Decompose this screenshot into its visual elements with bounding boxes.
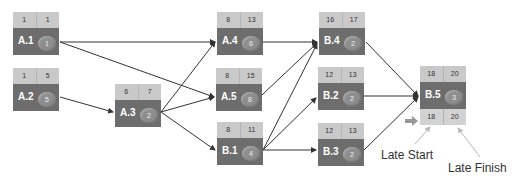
network-diagram: 11 A.11 15 A.25 67 A.32 813 A.46 815 A.5… <box>0 0 523 179</box>
late-start-pointer <box>415 127 430 144</box>
late-finish-pointer <box>458 128 480 157</box>
duration-badge: 3 <box>445 90 463 105</box>
duration-badge: 8 <box>241 92 259 107</box>
edge-b1-b4 <box>263 44 317 150</box>
node-label: A.2 <box>18 91 34 102</box>
duration-badge: 2 <box>343 91 361 106</box>
node-b4[interactable]: 1617 B.42 <box>319 12 365 55</box>
late-finish: 7 <box>139 84 162 100</box>
node-label: B.2 <box>323 90 339 101</box>
edge-a3-a4 <box>161 42 215 112</box>
node-b3[interactable]: 1213 B.32 <box>318 123 364 166</box>
late-finish: 11 <box>241 122 264 138</box>
node-b5[interactable]: 1820 B.53 1820 <box>420 66 466 125</box>
late-start: 18 <box>420 66 444 82</box>
late-finish: 13 <box>342 123 365 139</box>
node-label: B.4 <box>324 35 340 46</box>
node-a5[interactable]: 815 A.58 <box>216 68 262 111</box>
node-b2[interactable]: 1213 B.22 <box>318 67 364 110</box>
duration-badge: 4 <box>242 146 260 161</box>
edge-b3-b5 <box>364 97 418 150</box>
node-label: A.3 <box>120 107 136 118</box>
duration-badge: 5 <box>38 92 56 107</box>
late-finish-annotation: Late Finish <box>448 161 507 175</box>
node-label: A.4 <box>222 35 238 46</box>
late-start-annotation: Late Start <box>381 148 433 162</box>
late-finish: 15 <box>240 68 263 84</box>
node-a3[interactable]: 67 A.32 <box>115 84 161 127</box>
late-start: 16 <box>319 12 343 28</box>
node-b1[interactable]: 811 B.14 <box>217 122 263 165</box>
edge-b1-b2 <box>263 98 316 150</box>
late-start: 12 <box>318 123 342 139</box>
node-label: B.5 <box>425 89 441 100</box>
late-finish-bottom: 20 <box>444 109 467 125</box>
late-start: 1 <box>13 12 37 28</box>
late-start: 8 <box>217 12 241 28</box>
node-label: A.5 <box>221 91 237 102</box>
late-finish: 17 <box>343 12 366 28</box>
duration-badge: 6 <box>242 36 260 51</box>
late-finish: 13 <box>241 12 264 28</box>
late-start: 8 <box>217 122 241 138</box>
duration-badge: 1 <box>38 36 56 51</box>
late-start: 12 <box>318 67 342 83</box>
edge-a5-b4 <box>262 43 317 95</box>
duration-badge: 2 <box>344 36 362 51</box>
edge-a3-a5 <box>161 97 214 112</box>
late-finish: 13 <box>342 67 365 83</box>
late-start: 1 <box>13 68 37 84</box>
edge-a2-a3 <box>60 97 113 112</box>
edge-a3-b1 <box>161 112 215 150</box>
node-a1[interactable]: 11 A.11 <box>13 12 59 55</box>
late-finish: 5 <box>37 68 60 84</box>
current-arrow-icon <box>405 116 418 126</box>
duration-badge: 2 <box>343 147 361 162</box>
node-label: B.3 <box>323 146 339 157</box>
late-finish: 1 <box>37 12 60 28</box>
late-finish: 20 <box>444 66 467 82</box>
node-a4[interactable]: 813 A.46 <box>217 12 263 55</box>
late-start: 8 <box>216 68 240 84</box>
duration-badge: 2 <box>140 108 158 123</box>
node-a2[interactable]: 15 A.25 <box>13 68 59 111</box>
edge-b4-b5 <box>366 42 418 96</box>
node-label: B.1 <box>222 145 238 156</box>
node-label: A.1 <box>18 35 34 46</box>
late-start-bottom: 18 <box>420 109 444 125</box>
late-start: 6 <box>115 84 139 100</box>
